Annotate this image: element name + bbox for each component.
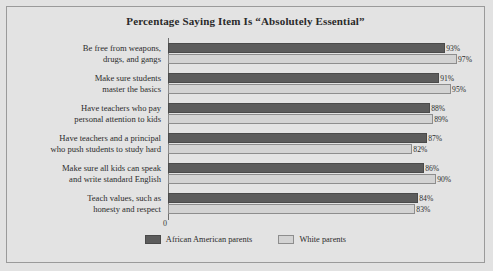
bar-white-parents[interactable]: 83% bbox=[168, 204, 415, 214]
category-label-line: master the basics bbox=[11, 83, 161, 94]
bar-white-parents[interactable]: 95% bbox=[168, 84, 451, 94]
bar-group: Make sure all kids can speakand write st… bbox=[168, 158, 466, 188]
chart-title: Percentage Saying Item Is “Absolutely Es… bbox=[7, 15, 484, 27]
category-label-line: Make sure all kids can speak bbox=[11, 163, 161, 174]
category-label-line: Have teachers and a principal bbox=[11, 133, 161, 144]
category-label-line: Be free from weapons, bbox=[11, 43, 161, 54]
bar-value-label: 83% bbox=[416, 204, 430, 213]
category-label: Teach values, such ashonesty and respect bbox=[11, 193, 161, 214]
bar-group: Have teachers who paypersonal attention … bbox=[168, 98, 466, 128]
category-label: Be free from weapons,drugs, and gangs bbox=[11, 43, 161, 64]
legend-swatch-icon-dark bbox=[145, 235, 161, 244]
bar-african-american-parents[interactable]: 93% bbox=[168, 43, 445, 53]
category-label-line: Teach values, such as bbox=[11, 193, 161, 204]
chart-legend: African American parents White parents bbox=[7, 235, 484, 244]
bar-group: Make sure studentsmaster the basics91%95… bbox=[168, 68, 466, 98]
category-label-line: honesty and respect bbox=[11, 203, 161, 214]
bar-value-label: 95% bbox=[452, 84, 466, 93]
plot-area: Be free from weapons,drugs, and gangs93%… bbox=[168, 38, 466, 218]
category-label: Have teachers and a principalwho push st… bbox=[11, 133, 161, 154]
bar-african-american-parents[interactable]: 87% bbox=[168, 133, 427, 143]
bar-row: 86% bbox=[168, 163, 466, 173]
bar-white-parents[interactable]: 90% bbox=[168, 174, 436, 184]
bar-white-parents[interactable]: 82% bbox=[168, 144, 412, 154]
chart-figure: Percentage Saying Item Is “Absolutely Es… bbox=[6, 6, 485, 263]
bar-value-label: 88% bbox=[431, 103, 445, 112]
bar-african-american-parents[interactable]: 86% bbox=[168, 163, 424, 173]
bar-row: 95% bbox=[168, 84, 466, 94]
bar-row: 97% bbox=[168, 54, 466, 64]
bar-value-label: 84% bbox=[419, 193, 433, 202]
bar-white-parents[interactable]: 89% bbox=[168, 114, 433, 124]
category-label: Make sure all kids can speakand write st… bbox=[11, 163, 161, 184]
bar-group: Teach values, such ashonesty and respect… bbox=[168, 188, 466, 218]
bar-african-american-parents[interactable]: 88% bbox=[168, 103, 430, 113]
bar-row: 91% bbox=[168, 73, 466, 83]
bar-african-american-parents[interactable]: 84% bbox=[168, 193, 418, 203]
legend-swatch-icon-light bbox=[278, 235, 294, 244]
bar-row: 89% bbox=[168, 114, 466, 124]
legend-label-white-parents: White parents bbox=[299, 235, 346, 244]
bar-value-label: 86% bbox=[425, 163, 439, 172]
legend-item-african-american-parents[interactable]: African American parents bbox=[145, 235, 253, 244]
category-label-line: and write standard English bbox=[11, 173, 161, 184]
bar-white-parents[interactable]: 97% bbox=[168, 54, 457, 64]
x-axis-tick-zero: 0 bbox=[163, 219, 167, 228]
bar-group: Have teachers and a principalwho push st… bbox=[168, 128, 466, 158]
bar-row: 82% bbox=[168, 144, 466, 154]
category-label-line: Make sure students bbox=[11, 73, 161, 84]
bar-value-label: 89% bbox=[434, 114, 448, 123]
bar-value-label: 97% bbox=[458, 54, 472, 63]
bar-value-label: 91% bbox=[440, 73, 454, 82]
bar-row: 83% bbox=[168, 204, 466, 214]
bar-value-label: 82% bbox=[413, 144, 427, 153]
bar-value-label: 90% bbox=[437, 174, 451, 183]
bar-value-label: 87% bbox=[428, 133, 442, 142]
bar-row: 88% bbox=[168, 103, 466, 113]
bar-african-american-parents[interactable]: 91% bbox=[168, 73, 439, 83]
category-label-line: Have teachers who pay bbox=[11, 103, 161, 114]
bar-row: 84% bbox=[168, 193, 466, 203]
legend-label-african-american-parents: African American parents bbox=[166, 235, 253, 244]
category-label: Make sure studentsmaster the basics bbox=[11, 73, 161, 94]
category-label-line: who push students to study hard bbox=[11, 143, 161, 154]
category-label-line: drugs, and gangs bbox=[11, 53, 161, 64]
legend-item-white-parents[interactable]: White parents bbox=[278, 235, 346, 244]
category-label-line: personal attention to kids bbox=[11, 113, 161, 124]
bar-row: 93% bbox=[168, 43, 466, 53]
bar-row: 90% bbox=[168, 174, 466, 184]
bar-group: Be free from weapons,drugs, and gangs93%… bbox=[168, 38, 466, 68]
category-label: Have teachers who paypersonal attention … bbox=[11, 103, 161, 124]
bar-value-label: 93% bbox=[446, 43, 460, 52]
bar-row: 87% bbox=[168, 133, 466, 143]
